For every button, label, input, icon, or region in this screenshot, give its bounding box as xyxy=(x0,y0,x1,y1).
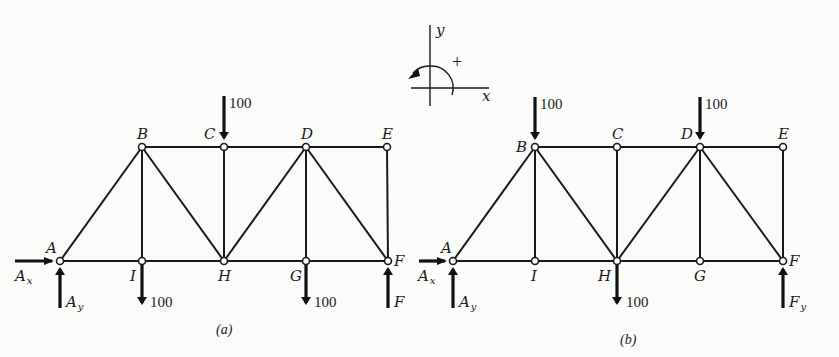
moment-arc xyxy=(413,66,453,95)
joint-i xyxy=(139,258,146,265)
joint-label-i: I xyxy=(530,267,538,285)
joint-a xyxy=(450,258,457,265)
member-df xyxy=(700,147,783,261)
joint-label-h: H xyxy=(217,267,232,285)
joint-c xyxy=(221,144,228,151)
joint-d xyxy=(697,144,704,151)
joint-label-f: F xyxy=(788,252,800,270)
joint-h xyxy=(614,258,621,265)
joint-c xyxy=(614,144,621,151)
y-axis-label: y xyxy=(435,21,445,39)
member-bh xyxy=(142,147,224,261)
caption-b: (b) xyxy=(620,332,637,348)
joint-f xyxy=(385,258,392,265)
reaction-ax-label: Ax xyxy=(416,267,436,286)
member-hd xyxy=(224,147,306,261)
load-label-g: 100 xyxy=(314,294,337,310)
load-label-h: 100 xyxy=(626,294,649,310)
joint-label-a: A xyxy=(44,239,57,257)
joint-label-c: C xyxy=(204,125,216,143)
joint-b xyxy=(532,144,539,151)
reaction-f-label: F xyxy=(393,293,405,311)
joint-label-c: C xyxy=(612,125,624,143)
joint-label-a: A xyxy=(439,239,452,257)
joint-label-d: D xyxy=(300,125,313,143)
member-hd xyxy=(617,147,700,261)
reaction-fy-label: Fy xyxy=(788,293,806,312)
member-ab xyxy=(60,147,142,261)
truss-figure: y x + 100 100 100 Ax Ay F xyxy=(0,0,839,357)
joint-label-b: B xyxy=(136,125,148,143)
joint-label-d: D xyxy=(680,125,693,143)
truss-panel-b: 100 100 100 Ax Ay Fy A B C D E F G H I (… xyxy=(416,96,806,348)
member-df xyxy=(306,147,388,261)
load-label-d: 100 xyxy=(705,96,728,112)
joint-e xyxy=(780,144,787,151)
member-bh xyxy=(535,147,617,261)
sign-convention: y x + xyxy=(408,21,491,106)
load-label-b: 100 xyxy=(540,96,563,112)
x-axis-label: x xyxy=(482,87,491,105)
joint-d xyxy=(303,144,310,151)
joint-label-e: E xyxy=(381,125,393,143)
joint-label-i: I xyxy=(129,267,137,285)
member-ef xyxy=(387,147,388,261)
joint-i xyxy=(532,258,539,265)
reaction-ax-label: Ax xyxy=(13,267,33,286)
member-ab xyxy=(453,147,535,261)
moment-sign: + xyxy=(452,52,462,72)
joint-label-e: E xyxy=(777,125,789,143)
joint-g xyxy=(697,258,704,265)
caption-a: (a) xyxy=(216,322,233,338)
joint-label-g: G xyxy=(694,267,706,285)
joint-h xyxy=(221,258,228,265)
reaction-ay-label: Ay xyxy=(457,293,477,312)
joint-label-g: G xyxy=(290,267,302,285)
reaction-ay-label: Ay xyxy=(64,293,84,312)
moment-arrow-icon xyxy=(408,68,420,79)
joint-a xyxy=(57,258,64,265)
joint-g xyxy=(303,258,310,265)
joint-label-f: F xyxy=(393,252,405,270)
joint-f xyxy=(780,258,787,265)
load-label-i: 100 xyxy=(150,294,173,310)
truss-panel-a: 100 100 100 Ax Ay F A B C D E F G H I (a… xyxy=(13,95,405,338)
joint-label-h: H xyxy=(597,267,612,285)
joint-label-b: B xyxy=(515,138,527,156)
load-label-c: 100 xyxy=(229,95,252,111)
joint-b xyxy=(139,144,146,151)
joint-e xyxy=(384,144,391,151)
